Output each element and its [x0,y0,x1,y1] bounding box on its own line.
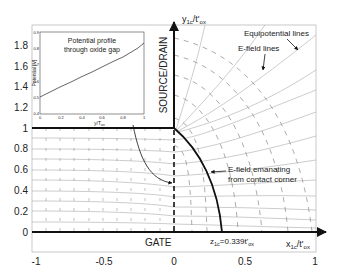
inset-pointer-arrow [133,125,172,183]
svg-text:1.6: 1.6 [14,61,28,72]
svg-text:1.8: 1.8 [14,40,28,51]
svg-text:-0.5: -0.5 [95,256,113,267]
svg-text:0.8: 0.8 [14,143,28,154]
inset-title-line2: through oxide gap [64,46,120,54]
y-axis-label: y1c/t'ox [182,14,206,25]
inset-x-label: y/Tox [94,120,105,127]
z1c-label: z1c=0.339t'ox [210,237,254,247]
svg-text:0: 0 [171,256,177,267]
y-tick-labels: 1.8 1.6 1.4 1.2 1 0.8 0.6 0.4 0.2 0 [14,40,28,238]
efield-arrow [263,54,265,70]
svg-text:0.4: 0.4 [14,185,28,196]
inset-y-label: Potential [V] [31,59,37,87]
svg-text:0.6: 0.6 [14,164,28,175]
svg-text:1: 1 [22,123,28,134]
field-diagram: 1.8 1.6 1.4 1.2 1 0.8 0.6 0.4 0.2 0 -1 -… [0,0,344,279]
x-tick-labels: -1 -0.5 0 0.5 1 [32,256,319,267]
svg-text:-1: -1 [32,256,41,267]
svg-text:0.5: 0.5 [33,95,39,100]
svg-text:0.9: 0.9 [33,30,39,35]
emanating-annotation-line2: from contact corner [228,175,297,184]
svg-text:0.2: 0.2 [14,206,28,217]
inset-x-ticks: 0 0.2 0.4 0.6 0.8 1 [39,115,146,120]
svg-text:0.8: 0.8 [120,115,126,120]
source-drain-label: SOURCE/DRAIN [158,37,169,114]
svg-text:0: 0 [22,227,28,238]
equipotential-arrow [287,39,298,50]
gate-label: GATE [145,237,172,248]
efield-annotation: E-field lines [238,44,279,53]
x-axis-label: x1c/t'ox [286,239,310,250]
svg-text:0.2: 0.2 [58,115,64,120]
inset-plot: Potential profile through oxide gap 0.4 … [31,30,146,127]
svg-text:0.5: 0.5 [238,256,252,267]
svg-text:1: 1 [143,115,146,120]
svg-text:0.8: 0.8 [33,46,39,51]
svg-text:0: 0 [39,115,42,120]
emanating-arrow [211,171,226,172]
equipotential-annotation: Equipotential lines [244,29,309,38]
corner-field-lines [174,25,316,228]
svg-text:1.2: 1.2 [14,102,28,113]
svg-text:1: 1 [312,256,318,267]
inset-title-line1: Potential profile [68,37,116,45]
emanating-annotation-line1: E-field emanating [228,165,290,174]
svg-text:1.4: 1.4 [14,81,28,92]
svg-text:0.4: 0.4 [79,115,85,120]
